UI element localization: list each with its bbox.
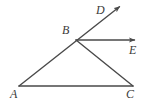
- vertex-label-d: D: [96, 4, 105, 16]
- geometry-figure: A B C D E: [0, 0, 151, 110]
- vertex-label-c: C: [126, 88, 134, 100]
- vertex-label-a: A: [10, 88, 17, 100]
- segment-B-to-C: [76, 40, 133, 86]
- vertex-label-e: E: [129, 44, 136, 56]
- ray-A-through-B-to-D: [19, 7, 119, 86]
- vertex-label-b: B: [62, 24, 69, 36]
